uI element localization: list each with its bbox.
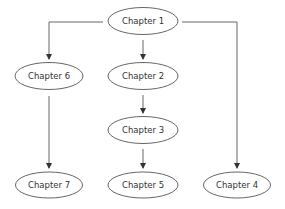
- node-label: Chapter 5: [122, 180, 164, 190]
- node-label: Chapter 6: [28, 71, 70, 81]
- node-label: Chapter 7: [28, 180, 70, 190]
- edge-ch1-to-ch4: [182, 22, 237, 168]
- node-chapter-3: Chapter 3: [108, 117, 178, 144]
- node-chapter-5: Chapter 5: [108, 172, 178, 198]
- node-chapter-7: Chapter 7: [16, 172, 83, 198]
- node-label: Chapter 3: [122, 125, 164, 135]
- node-chapter-6: Chapter 6: [15, 63, 83, 90]
- node-label: Chapter 2: [122, 71, 164, 81]
- node-chapter-1: Chapter 1: [108, 8, 178, 35]
- node-label: Chapter 4: [216, 180, 258, 190]
- node-chapter-4: Chapter 4: [204, 172, 271, 198]
- node-chapter-2: Chapter 2: [108, 63, 178, 90]
- node-label: Chapter 1: [122, 16, 164, 26]
- edge-ch1-to-ch6: [49, 22, 103, 59]
- chapter-flow-diagram: Chapter 1 Chapter 6 Chapter 2 Chapter 3 …: [0, 0, 285, 209]
